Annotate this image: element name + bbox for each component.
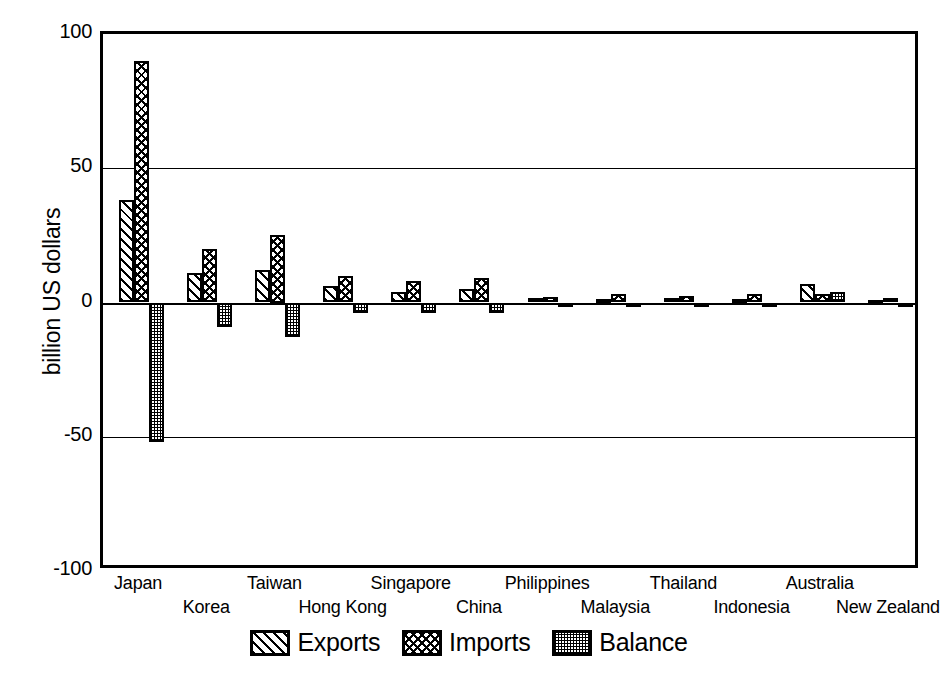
bar-exports[interactable] (119, 200, 134, 302)
legend-swatch-exports (250, 630, 290, 656)
x-label-australia: Australia (740, 572, 900, 594)
bar-group (512, 34, 580, 565)
bar-balance[interactable] (626, 303, 641, 308)
bar-group (717, 34, 785, 565)
y-tick-label: 50 (30, 155, 92, 175)
bar-balance[interactable] (762, 303, 777, 308)
bar-group (648, 34, 716, 565)
bar-group (376, 34, 444, 565)
bar-exports[interactable] (868, 300, 883, 304)
bar-group (580, 34, 648, 565)
bar-imports[interactable] (747, 294, 762, 302)
bar-group (239, 34, 307, 565)
bar-imports[interactable] (270, 235, 285, 302)
bar-exports[interactable] (187, 273, 202, 303)
bar-imports[interactable] (883, 298, 898, 302)
bar-balance[interactable] (558, 303, 573, 307)
bar-exports[interactable] (596, 299, 611, 303)
bar-balance[interactable] (217, 303, 232, 327)
bar-balance[interactable] (285, 303, 300, 338)
bar-exports[interactable] (459, 289, 474, 302)
legend-item-imports[interactable]: Imports (402, 628, 530, 657)
bar-balance[interactable] (421, 303, 436, 314)
legend-swatch-balance (552, 630, 592, 656)
bar-balance[interactable] (149, 303, 164, 443)
bar-exports[interactable] (664, 298, 679, 302)
bar-imports[interactable] (611, 294, 626, 302)
bar-imports[interactable] (202, 249, 217, 303)
y-tick-label: 0 (30, 290, 92, 310)
bar-imports[interactable] (338, 276, 353, 303)
bar-group (853, 34, 921, 565)
plot-inner (103, 34, 915, 565)
bar-group (308, 34, 376, 565)
bar-imports[interactable] (134, 61, 149, 303)
bar-balance[interactable] (489, 303, 504, 314)
legend-swatch-imports (402, 630, 442, 656)
x-label-new-zealand: New Zealand (808, 596, 944, 618)
bar-balance[interactable] (694, 303, 709, 307)
bar-balance[interactable] (898, 303, 913, 307)
bar-exports[interactable] (732, 299, 747, 303)
bar-exports[interactable] (255, 270, 270, 302)
bar-exports[interactable] (800, 284, 815, 303)
x-axis-category-labels: JapanKoreaTaiwanHong KongSingaporeChinaP… (100, 572, 918, 624)
bar-group (444, 34, 512, 565)
legend-label-imports: Imports (449, 628, 530, 657)
bar-imports[interactable] (543, 297, 558, 302)
bar-exports[interactable] (323, 286, 338, 302)
bar-imports[interactable] (679, 296, 694, 303)
y-tick-label: -50 (30, 424, 92, 444)
legend-item-balance[interactable]: Balance (552, 628, 687, 657)
bar-balance[interactable] (353, 303, 368, 314)
bar-imports[interactable] (474, 278, 489, 302)
legend-label-balance: Balance (599, 628, 687, 657)
legend-item-exports[interactable]: Exports (250, 628, 380, 657)
y-tick-label: 100 (30, 21, 92, 41)
bar-exports[interactable] (528, 298, 543, 302)
bar-exports[interactable] (391, 292, 406, 303)
bar-imports[interactable] (406, 281, 421, 302)
bar-group (103, 34, 171, 565)
legend-label-exports: Exports (297, 628, 380, 657)
plot-area (100, 31, 918, 568)
chart-legend: ExportsImportsBalance (0, 628, 938, 657)
bar-imports[interactable] (815, 294, 830, 302)
bar-group (785, 34, 853, 565)
bar-balance[interactable] (830, 292, 845, 303)
bar-group (171, 34, 239, 565)
